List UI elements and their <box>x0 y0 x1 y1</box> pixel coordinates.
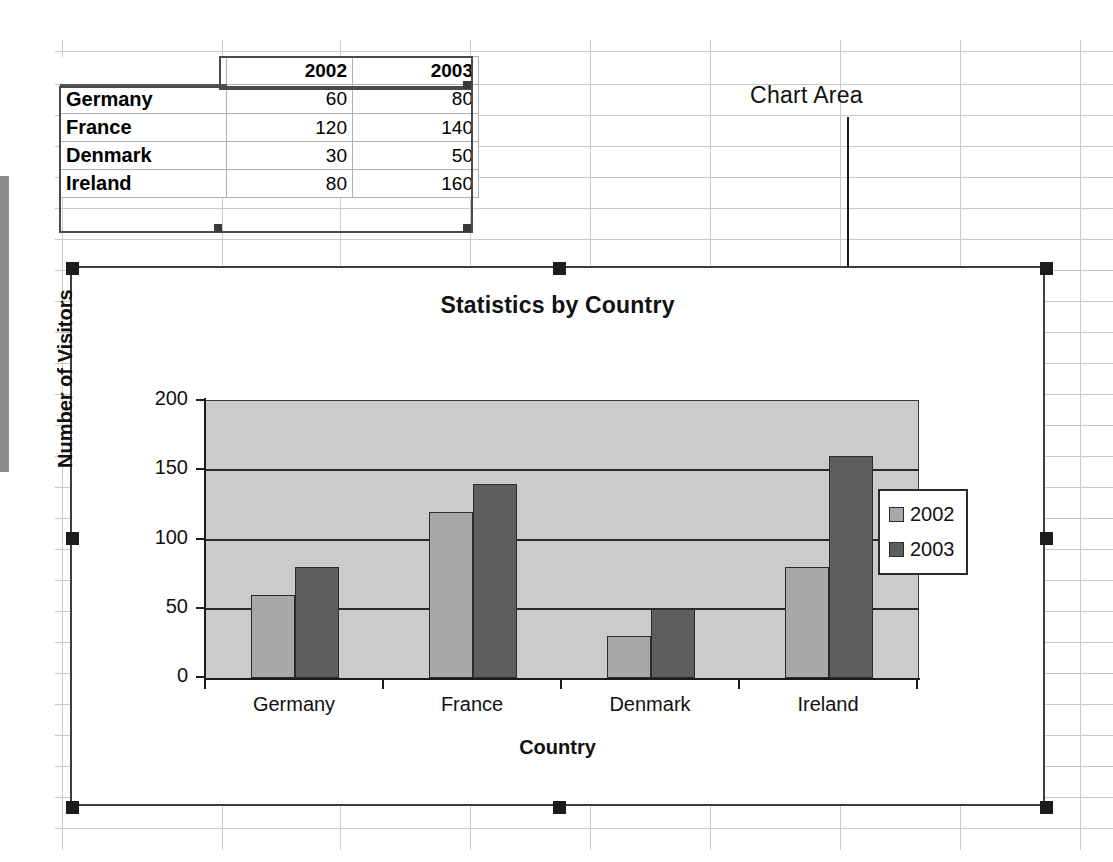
bar-germany-2002[interactable] <box>251 595 295 678</box>
cell-ireland-2002[interactable]: 80 <box>227 169 353 197</box>
row-label-germany[interactable]: Germany <box>61 85 227 114</box>
legend-label-2002: 2002 <box>910 503 955 526</box>
legend-entry-2003[interactable]: 2003 <box>889 536 955 562</box>
bar-france-2002[interactable] <box>429 512 473 678</box>
column-header-2002[interactable]: 2002 <box>227 57 353 85</box>
bar-ireland-2002[interactable] <box>785 567 829 678</box>
chart-area-annotation-label: Chart Area <box>750 82 863 109</box>
table-row[interactable]: Denmark 30 50 <box>61 141 479 169</box>
chart-legend[interactable]: 2002 2003 <box>878 489 968 575</box>
chart-handle-middle-right[interactable] <box>1040 532 1053 545</box>
bar-ireland-2003[interactable] <box>829 456 873 678</box>
chart-handle-top-right[interactable] <box>1040 262 1053 275</box>
table-row[interactable]: Germany 60 80 <box>61 85 479 114</box>
value-axis-tick-label: 0 <box>140 664 188 687</box>
cell-france-2003[interactable]: 140 <box>353 113 479 141</box>
category-axis-label[interactable]: France <box>397 693 547 716</box>
chart-title[interactable]: Statistics by Country <box>72 292 1043 319</box>
screenshot-stage: 2002 2003 Germany 60 80 France 120 140 D… <box>0 0 1113 862</box>
value-axis-tick <box>196 607 205 609</box>
category-axis-label[interactable]: Denmark <box>575 693 725 716</box>
chart-handle-bottom-left[interactable] <box>66 801 79 814</box>
cell-denmark-2002[interactable]: 30 <box>227 141 353 169</box>
value-axis-tick <box>196 538 205 540</box>
value-axis-tick-label: 200 <box>140 387 188 410</box>
category-axis-tick <box>382 679 384 689</box>
bar-germany-2003[interactable] <box>295 567 339 678</box>
category-axis-line <box>204 678 920 680</box>
scan-edge-artifact <box>0 176 9 472</box>
chart-handle-top-center[interactable] <box>553 262 566 275</box>
legend-swatch-2002 <box>889 507 904 522</box>
plot-area[interactable] <box>205 400 919 679</box>
legend-entry-2002[interactable]: 2002 <box>889 501 955 527</box>
worksheet-data-range[interactable]: 2002 2003 Germany 60 80 France 120 140 D… <box>60 56 479 198</box>
column-header-2003[interactable]: 2003 <box>353 57 479 85</box>
category-axis-label[interactable]: Germany <box>219 693 369 716</box>
table-row[interactable]: Ireland 80 160 <box>61 169 479 197</box>
value-axis-tick <box>196 399 205 401</box>
value-axis-title[interactable]: Number of Visitors <box>54 289 77 468</box>
category-axis-label[interactable]: Ireland <box>753 693 903 716</box>
value-axis-tick-label: 150 <box>140 456 188 479</box>
header-corner-cell <box>61 57 227 85</box>
cell-france-2002[interactable]: 120 <box>227 113 353 141</box>
chart-handle-bottom-right[interactable] <box>1040 801 1053 814</box>
value-axis-tick-label: 50 <box>140 595 188 618</box>
bar-denmark-2003[interactable] <box>651 609 695 678</box>
value-axis-tick-label: 100 <box>140 526 188 549</box>
gridline <box>206 539 918 541</box>
bar-denmark-2002[interactable] <box>607 636 651 678</box>
range-handle-bottom-right[interactable] <box>463 224 471 232</box>
cell-ireland-2003[interactable]: 160 <box>353 169 479 197</box>
cell-denmark-2003[interactable]: 50 <box>353 141 479 169</box>
table-row[interactable]: France 120 140 <box>61 113 479 141</box>
range-handle-top-right[interactable] <box>463 81 471 89</box>
table-header-row: 2002 2003 <box>61 57 479 85</box>
row-label-france[interactable]: France <box>61 113 227 141</box>
bar-france-2003[interactable] <box>473 484 517 678</box>
legend-swatch-2003 <box>889 542 904 557</box>
chart-handle-bottom-center[interactable] <box>553 801 566 814</box>
grid-column-line <box>1080 40 1081 850</box>
range-handle-bottom-left[interactable] <box>214 224 222 232</box>
category-axis-tick <box>560 679 562 689</box>
category-axis-tick <box>738 679 740 689</box>
chart-handle-top-left[interactable] <box>66 262 79 275</box>
grid-row-line <box>55 828 1113 829</box>
cell-germany-2002[interactable]: 60 <box>227 85 353 114</box>
grid-row-line <box>55 208 1113 209</box>
grid-row-line <box>55 239 1113 240</box>
row-label-ireland[interactable]: Ireland <box>61 169 227 197</box>
category-axis-tick <box>204 679 206 689</box>
category-axis-title[interactable]: Country <box>72 736 1043 759</box>
grid-row-line <box>55 51 1113 52</box>
chart-handle-middle-left[interactable] <box>66 532 79 545</box>
value-axis-line <box>204 398 206 681</box>
gridline <box>206 469 918 471</box>
category-axis-tick <box>916 679 918 689</box>
chart-object[interactable]: Statistics by Country 050100150200 Numbe… <box>70 266 1045 806</box>
worksheet-table[interactable]: 2002 2003 Germany 60 80 France 120 140 D… <box>60 56 479 198</box>
cell-germany-2003[interactable]: 80 <box>353 85 479 114</box>
value-axis-tick <box>196 468 205 470</box>
legend-label-2003: 2003 <box>910 538 955 561</box>
row-label-denmark[interactable]: Denmark <box>61 141 227 169</box>
